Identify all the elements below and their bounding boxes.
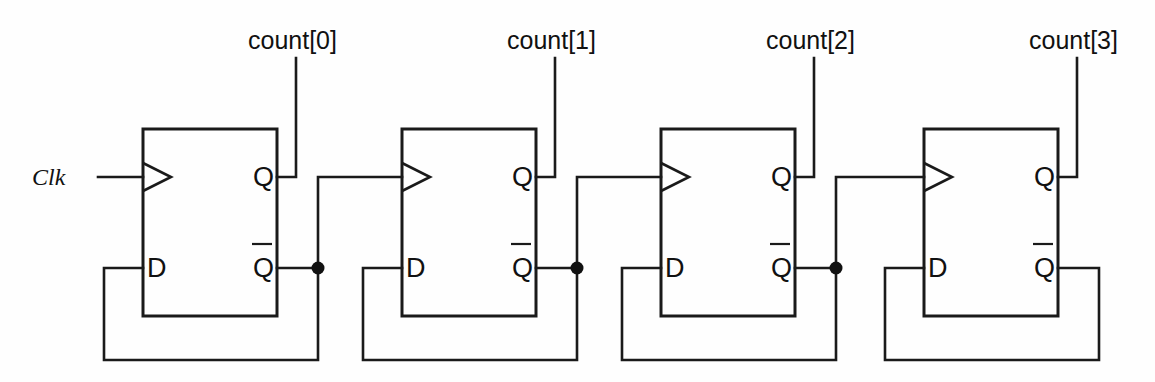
q-output-wire-0	[277, 58, 296, 177]
flip-flop-box-1[interactable]	[402, 129, 536, 316]
flip-flop-box-0[interactable]	[143, 129, 277, 316]
clock-triangle-icon-2	[661, 163, 689, 191]
output-label-2: count[2]	[766, 26, 855, 54]
junction-dot-0	[312, 262, 325, 275]
flip-flop-stage-2[interactable]: D Q Q count[2]	[622, 26, 924, 360]
q-output-wire-2	[795, 58, 814, 177]
flip-flop-stage-0[interactable]: D Q Q count[0]	[98, 26, 402, 360]
qbar-pin-label-3: Q	[1034, 253, 1055, 283]
qbar-to-next-clock-wire-2	[836, 177, 924, 268]
qbar-to-d-feedback-wire-2	[622, 268, 836, 360]
flip-flop-stage-3[interactable]: D Q Q count[3]	[885, 26, 1118, 360]
qbar-pin-label-1: Q	[512, 253, 533, 283]
q-output-wire-1	[536, 58, 555, 177]
junction-dot-2	[830, 262, 843, 275]
q-pin-label-2: Q	[771, 162, 792, 192]
qbar-to-next-clock-wire-1	[577, 177, 661, 268]
qbar-to-d-feedback-wire-3	[885, 268, 1099, 360]
output-label-0: count[0]	[248, 26, 337, 54]
q-pin-label-0: Q	[253, 162, 274, 192]
clock-triangle-icon-0	[143, 163, 171, 191]
d-pin-label-0: D	[147, 253, 167, 283]
q-pin-label-1: Q	[512, 162, 533, 192]
output-label-3: count[3]	[1029, 26, 1118, 54]
clock-triangle-icon-1	[402, 163, 430, 191]
output-label-1: count[1]	[507, 26, 596, 54]
flip-flop-box-2[interactable]	[661, 129, 795, 316]
q-pin-label-3: Q	[1034, 162, 1055, 192]
qbar-to-d-feedback-wire-0	[104, 268, 318, 360]
qbar-to-next-clock-wire-0	[318, 177, 402, 268]
clock-triangle-icon-3	[924, 163, 952, 191]
flip-flop-box-3[interactable]	[924, 129, 1058, 316]
flip-flop-stage-1[interactable]: D Q Q count[1]	[363, 26, 661, 360]
clk-input-label: Clk	[32, 164, 66, 190]
qbar-to-d-feedback-wire-1	[363, 268, 577, 360]
circuit-diagram-canvas: D Q Q count[0] D Q Q count[1]	[0, 0, 1155, 382]
junction-dot-1	[571, 262, 584, 275]
d-pin-label-1: D	[406, 253, 426, 283]
circuit-schematic: D Q Q count[0] D Q Q count[1]	[0, 0, 1155, 382]
d-pin-label-2: D	[665, 253, 685, 283]
qbar-pin-label-0: Q	[253, 253, 274, 283]
q-output-wire-3	[1058, 58, 1077, 177]
d-pin-label-3: D	[928, 253, 948, 283]
qbar-pin-label-2: Q	[771, 253, 792, 283]
